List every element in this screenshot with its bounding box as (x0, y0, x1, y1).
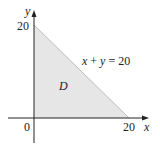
region-label: D (58, 79, 68, 93)
x-axis-label: x (143, 120, 150, 134)
y-axis-label: y (24, 4, 31, 18)
y-intercept-label: 20 (17, 19, 29, 33)
x-intercept-label: 20 (123, 120, 135, 134)
y-axis-arrow-icon (32, 10, 37, 17)
region-diagram: y 20 x + y = 20 D 0 20 x (0, 0, 160, 153)
origin-label: 0 (24, 120, 30, 134)
line-equation-label: x + y = 20 (81, 54, 130, 68)
